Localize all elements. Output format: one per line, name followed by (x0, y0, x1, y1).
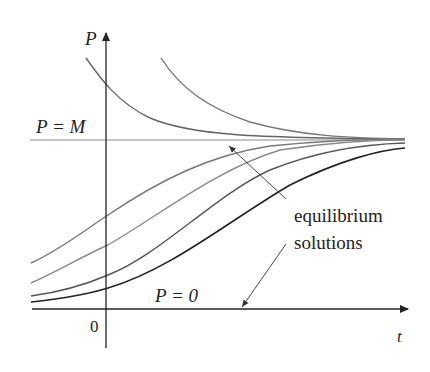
curve-above-2 (161, 58, 405, 139)
t-axis-label: t (397, 327, 403, 346)
annotation-text-line1: equilibrium (294, 205, 383, 226)
annotation-arrow-to-m (229, 146, 286, 199)
equilibrium-zero-label: P = 0 (154, 285, 199, 306)
annotation-text-line2: solutions (294, 232, 363, 253)
curve-above-1 (86, 58, 405, 139)
logistic-diagram: P t 0 P = M P = 0 equilibrium solutions (0, 0, 430, 372)
p-axis-label: P (84, 28, 97, 49)
equilibrium-m-label: P = M (35, 116, 87, 137)
annotation-arrow-to-zero (242, 244, 286, 307)
origin-label: 0 (90, 317, 99, 336)
